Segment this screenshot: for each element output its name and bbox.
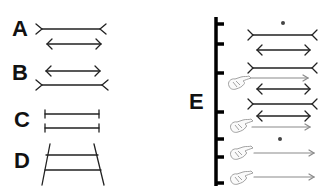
arrowheads-line-icon — [257, 84, 310, 94]
fins-out-line-icon — [36, 24, 106, 34]
figure-d — [42, 144, 104, 185]
gray-arrow-icon — [250, 75, 308, 81]
figure-b — [36, 66, 108, 90]
arrowheads-line-icon — [257, 45, 310, 55]
fixation-dot-icon — [278, 137, 282, 141]
pointing-hand-icon — [230, 119, 253, 132]
gray-arrow-icon — [254, 174, 314, 180]
vertical-axis — [216, 17, 224, 186]
fins-out-line-icon — [36, 80, 108, 90]
figures-canvas — [0, 0, 331, 196]
figure-a — [36, 24, 106, 49]
figure-e — [216, 17, 317, 186]
pointing-hand-icon — [230, 146, 253, 159]
fixation-dot-icon — [281, 21, 285, 25]
pointing-hand-icon — [230, 171, 253, 184]
arrowheads-line-icon — [47, 39, 101, 49]
fins-out-line-icon — [248, 99, 317, 109]
figure-c — [45, 110, 99, 132]
fins-out-line-icon — [248, 63, 317, 73]
gray-arrow-icon — [252, 124, 310, 130]
arrowheads-line-icon — [46, 66, 100, 76]
pointing-hand-icon — [228, 76, 251, 89]
fins-out-line-icon — [248, 30, 317, 40]
arrowheads-line-icon — [257, 111, 310, 121]
gray-arrow-icon — [254, 150, 314, 156]
illusion-diagram: A B C D E — [0, 0, 331, 196]
